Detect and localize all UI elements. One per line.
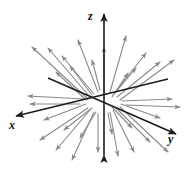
field-vector-arrow	[120, 107, 168, 152]
axis-label-x: x	[9, 119, 15, 131]
axis-line-group	[16, 14, 176, 155]
vector-field-canvas	[0, 0, 193, 186]
axis-label-y: y	[168, 133, 173, 145]
field-vector-arrow	[108, 113, 112, 134]
field-vector-arrow	[72, 112, 94, 160]
field-vector-arrow	[62, 56, 94, 94]
field-vector-arrow	[122, 99, 172, 101]
field-vector-arrow	[28, 96, 84, 99]
field-vector-arrow	[56, 72, 86, 100]
vector-field-figure: z x y	[0, 0, 193, 186]
field-vector-arrow	[70, 66, 92, 95]
field-vector-arrow	[78, 40, 98, 92]
axis-label-z: z	[88, 10, 93, 22]
field-vector-arrow	[126, 105, 180, 107]
